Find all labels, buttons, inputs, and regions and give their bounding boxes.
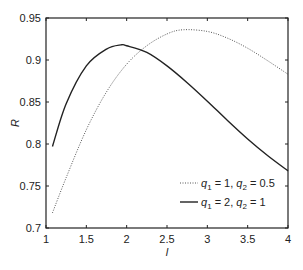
x-tick-label: 2: [124, 233, 130, 245]
legend: q1 = 1, q2 = 0.5 q1 = 2, q2 = 1: [180, 177, 275, 211]
y-tick-label: 0.75: [20, 180, 41, 192]
series-line-2: [52, 45, 288, 171]
legend-label-series-1: q1 = 1, q2 = 0.5: [201, 177, 275, 192]
y-tick-label: 0.95: [20, 12, 41, 24]
y-tick-label: 0.85: [20, 96, 41, 108]
y-tick-label: 0.9: [26, 54, 41, 66]
line-chart: 11.522.533.540.70.750.80.850.90.95lR q1 …: [0, 0, 303, 270]
x-tick-label: 3: [204, 233, 210, 245]
x-tick-label: 2.5: [159, 233, 174, 245]
x-tick-label: 1.5: [79, 233, 94, 245]
y-tick-label: 0.7: [26, 222, 41, 234]
y-tick-label: 0.8: [26, 138, 41, 150]
axes: 11.522.533.540.70.750.80.850.90.95lR: [9, 12, 291, 258]
legend-label-series-2: q1 = 2, q2 = 1: [201, 196, 266, 211]
x-axis-label: l: [166, 246, 169, 258]
x-tick-label: 3.5: [240, 233, 255, 245]
y-axis-label: R: [9, 119, 21, 127]
x-tick-label: 4: [285, 233, 291, 245]
x-tick-label: 1: [43, 233, 49, 245]
